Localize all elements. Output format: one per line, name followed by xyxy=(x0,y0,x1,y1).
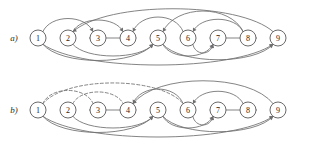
node-b-6[interactable]: 6 xyxy=(180,102,196,118)
node-a-2[interactable]: 2 xyxy=(60,30,76,46)
node-a-1[interactable]: 1 xyxy=(30,30,46,46)
node-label-a-6: 6 xyxy=(186,34,190,43)
node-label-b-2: 2 xyxy=(66,106,70,115)
node-a-9[interactable]: 9 xyxy=(270,30,286,46)
node-a-6[interactable]: 6 xyxy=(180,30,196,46)
node-label-b-7: 7 xyxy=(216,106,220,115)
edge-b-2-to-5 xyxy=(73,116,153,128)
node-a-7[interactable]: 7 xyxy=(210,30,226,46)
node-b-3[interactable]: 3 xyxy=(90,102,106,118)
edge-b-1-to-9 xyxy=(43,116,273,137)
panel-label-b: b) xyxy=(10,105,18,115)
panel-labels: a)b) xyxy=(10,33,18,115)
edge-b-9-to-4 xyxy=(133,81,273,104)
node-label-b-9: 9 xyxy=(276,106,280,115)
node-label-b-4: 4 xyxy=(126,106,130,115)
node-a-5[interactable]: 5 xyxy=(150,30,166,46)
node-label-b-1: 1 xyxy=(36,106,40,115)
graph-figure: 123456789 123456789 a)b) xyxy=(0,0,310,141)
node-label-a-3: 3 xyxy=(96,34,100,43)
node-label-b-3: 3 xyxy=(96,106,100,115)
node-b-8[interactable]: 8 xyxy=(240,102,256,118)
node-label-a-1: 1 xyxy=(36,34,40,43)
node-a-8[interactable]: 8 xyxy=(240,30,256,46)
node-b-7[interactable]: 7 xyxy=(210,102,226,118)
node-label-a-8: 8 xyxy=(246,34,250,43)
node-a-4[interactable]: 4 xyxy=(120,30,136,46)
panel-label-a: a) xyxy=(10,33,18,43)
node-b-1[interactable]: 1 xyxy=(30,102,46,118)
node-label-b-6: 6 xyxy=(186,106,190,115)
node-label-b-5: 5 xyxy=(156,106,160,115)
panel-b-nodes: 123456789 xyxy=(30,102,286,118)
node-label-a-4: 4 xyxy=(126,34,130,43)
node-label-a-7: 7 xyxy=(216,34,220,43)
node-label-a-9: 9 xyxy=(276,34,280,43)
panel-a-nodes: 123456789 xyxy=(30,30,286,46)
node-b-9[interactable]: 9 xyxy=(270,102,286,118)
node-b-4[interactable]: 4 xyxy=(120,102,136,118)
node-label-a-2: 2 xyxy=(66,34,70,43)
node-label-a-5: 5 xyxy=(156,34,160,43)
node-label-b-8: 8 xyxy=(246,106,250,115)
edge-a-6-to-4 xyxy=(133,17,183,32)
node-b-5[interactable]: 5 xyxy=(150,102,166,118)
edge-a-1-to-9 xyxy=(43,44,273,65)
node-a-3[interactable]: 3 xyxy=(90,30,106,46)
node-b-2[interactable]: 2 xyxy=(60,102,76,118)
edge-a-2-to-5 xyxy=(73,44,153,56)
